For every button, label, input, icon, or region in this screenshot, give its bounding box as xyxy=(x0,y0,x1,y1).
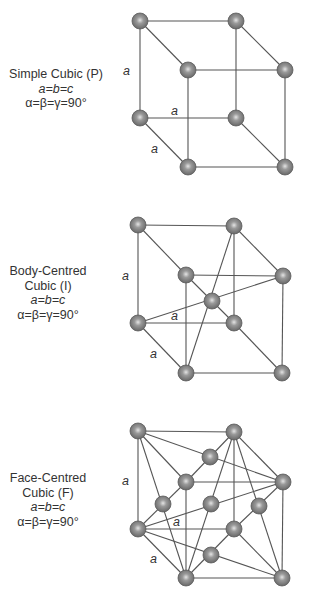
bcc-edge-label-horizontal: a xyxy=(171,309,178,323)
fcc-edge-label-horizontal: a xyxy=(173,515,180,529)
fcc-front-back-face-atom xyxy=(203,496,219,512)
bcc-edge-label-vertical: a xyxy=(122,269,129,283)
fcc-top-face-atom xyxy=(202,449,218,465)
fcc-edge-label-depth: a xyxy=(150,552,157,566)
sc-edge-label-vertical: a xyxy=(123,64,130,78)
sc-edge-label-horizontal: a xyxy=(171,104,178,118)
fcc-right-face-atom xyxy=(251,498,267,514)
fcc-edge-label-vertical: a xyxy=(122,474,129,488)
crystal-lattice-diagrams: a a a a a a xyxy=(0,0,309,590)
simple-cubic-diagram xyxy=(140,21,285,167)
fcc-left-face-atom xyxy=(155,496,171,512)
fcc-bottom-face-atom xyxy=(203,547,219,563)
bcc-edge-label-depth: a xyxy=(150,347,157,361)
bcc-body-center-atom xyxy=(204,293,220,309)
sc-edge-label-depth: a xyxy=(151,142,158,156)
